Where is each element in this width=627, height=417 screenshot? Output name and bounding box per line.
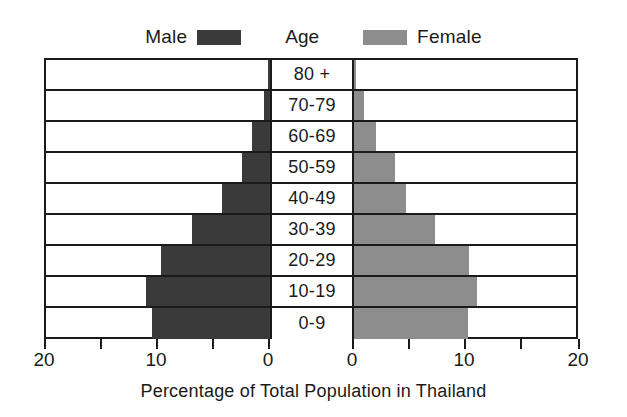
age-label: 30-39 <box>288 219 336 240</box>
age-label: 10-19 <box>288 281 336 302</box>
legend-label-female: Female <box>417 26 482 48</box>
axis-tick <box>408 339 410 349</box>
age-label: 70-79 <box>288 95 336 116</box>
legend-swatch-male-icon <box>197 30 241 45</box>
bar-male <box>152 308 270 339</box>
population-pyramid-chart: Male Age Female 80 +70-7960-6950-5940-49… <box>0 0 627 417</box>
axis-tick <box>44 339 46 349</box>
age-label-cell: 70-79 <box>270 91 354 120</box>
bar-female <box>354 122 376 151</box>
bar-male <box>242 153 270 182</box>
x-axis-tick-labels: 2010001020 <box>0 349 627 375</box>
bar-female <box>354 277 477 306</box>
pyramid-row: 10-19 <box>46 277 576 308</box>
age-label-cell: 20-29 <box>270 246 354 275</box>
bar-female <box>354 246 469 275</box>
age-label-cell: 0-9 <box>270 308 354 339</box>
pyramid-row: 50-59 <box>46 153 576 184</box>
age-label-cell: 50-59 <box>270 153 354 182</box>
pyramid-row: 60-69 <box>46 122 576 153</box>
pyramid-row: 30-39 <box>46 215 576 246</box>
x-axis <box>44 339 578 349</box>
pyramid-row: 0-9 <box>46 308 576 339</box>
axis-tick <box>464 339 466 349</box>
bar-female <box>354 308 468 339</box>
pyramid-row: 80 + <box>46 60 576 91</box>
bar-male <box>252 122 270 151</box>
age-label-cell: 40-49 <box>270 184 354 213</box>
axis-tick <box>100 339 102 349</box>
pyramid-row: 20-29 <box>46 246 576 277</box>
age-label: 40-49 <box>288 188 336 209</box>
bar-female <box>354 153 395 182</box>
age-label-cell: 80 + <box>270 60 354 89</box>
x-axis-title: Percentage of Total Population in Thaila… <box>0 381 627 402</box>
legend-item-male: Male <box>145 26 241 48</box>
age-label: 80 + <box>294 64 331 85</box>
axis-tick-label: 20 <box>567 349 588 371</box>
plot-area: 80 +70-7960-6950-5940-4930-3920-2910-190… <box>44 58 578 339</box>
chart-legend: Male Age Female <box>0 22 627 52</box>
pyramid-row: 70-79 <box>46 91 576 122</box>
axis-tick <box>156 339 158 349</box>
axis-tick-label: 0 <box>263 349 274 371</box>
age-label-cell: 60-69 <box>270 122 354 151</box>
bar-male <box>146 277 270 306</box>
bar-female <box>354 184 406 213</box>
axis-tick <box>212 339 214 349</box>
axis-tick-label: 0 <box>347 349 358 371</box>
bar-female <box>354 91 364 120</box>
bar-female <box>354 215 435 244</box>
axis-tick <box>268 339 270 349</box>
age-label-cell: 10-19 <box>270 277 354 306</box>
age-label-cell: 30-39 <box>270 215 354 244</box>
axis-tick-label: 10 <box>453 349 474 371</box>
age-label: 50-59 <box>288 157 336 178</box>
bar-male <box>222 184 270 213</box>
age-label: 20-29 <box>288 250 336 271</box>
legend-label-male: Male <box>145 26 187 48</box>
age-label: 60-69 <box>288 126 336 147</box>
axis-tick-label: 10 <box>145 349 166 371</box>
axis-tick <box>578 339 580 349</box>
pyramid-row: 40-49 <box>46 184 576 215</box>
bar-male <box>161 246 270 275</box>
bar-female <box>354 60 356 89</box>
legend-swatch-female-icon <box>363 30 407 45</box>
axis-tick <box>520 339 522 349</box>
axis-tick <box>352 339 354 349</box>
axis-tick-label: 20 <box>33 349 54 371</box>
age-label: 0-9 <box>299 313 326 334</box>
legend-label-age: Age <box>285 26 319 48</box>
bar-male <box>192 215 270 244</box>
legend-item-female: Female <box>363 26 482 48</box>
